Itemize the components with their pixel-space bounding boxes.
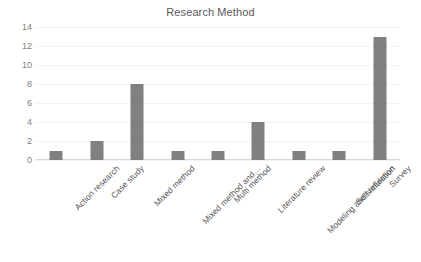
- y-axis-tick-label: 8: [2, 80, 32, 89]
- y-axis-tick-label: 6: [2, 99, 32, 108]
- y-axis: 14121086420: [0, 27, 32, 160]
- y-axis-tick-label: 4: [2, 118, 32, 127]
- chart-title: Research Method: [0, 6, 421, 18]
- bar-slot: [36, 27, 76, 160]
- y-axis-tick-label: 10: [2, 61, 32, 70]
- bar[interactable]: [333, 151, 346, 161]
- bar[interactable]: [211, 151, 224, 161]
- y-axis-tick-label: 14: [2, 23, 32, 32]
- bar-slot: [117, 27, 157, 160]
- bar-slot: [319, 27, 359, 160]
- bar-slot: [360, 27, 400, 160]
- x-axis-tick-label: Mixed method: [153, 164, 197, 208]
- bar[interactable]: [131, 84, 144, 160]
- plot-area: [36, 27, 400, 160]
- bar-slot: [76, 27, 116, 160]
- bar[interactable]: [90, 141, 103, 160]
- bar[interactable]: [171, 151, 184, 161]
- bar-slot: [157, 27, 197, 160]
- bar[interactable]: [292, 151, 305, 161]
- bar-slot: [238, 27, 278, 160]
- y-axis-tick-label: 0: [2, 156, 32, 165]
- bar[interactable]: [373, 37, 386, 161]
- chart-container: Research Method 14121086420 Action resea…: [0, 0, 421, 262]
- bar[interactable]: [50, 151, 63, 161]
- x-axis: Action researchCase studyMixed methodMix…: [36, 160, 400, 260]
- y-axis-tick-label: 2: [2, 137, 32, 146]
- bar-slot: [198, 27, 238, 160]
- x-axis-tick-label: Mixed method and…: [201, 164, 263, 226]
- bar-slot: [279, 27, 319, 160]
- x-axis-tick-label: Literature review: [277, 164, 328, 215]
- y-axis-tick-label: 12: [2, 42, 32, 51]
- bar[interactable]: [252, 122, 265, 160]
